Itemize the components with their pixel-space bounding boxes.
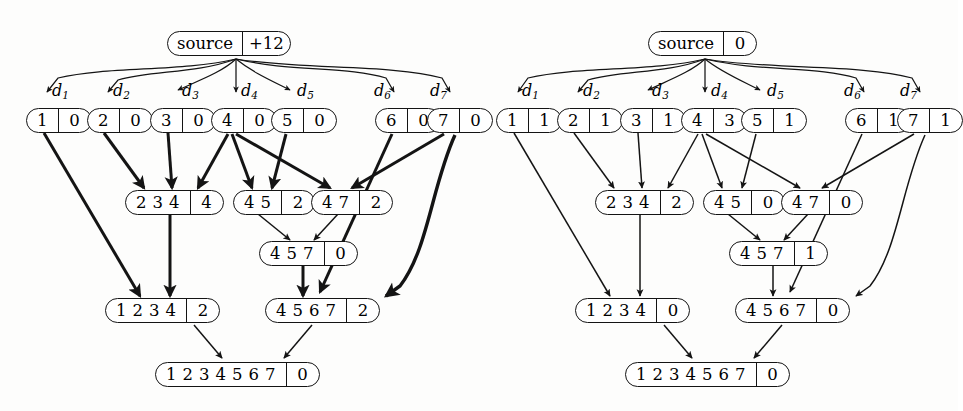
right-edge-label-d2: d2 [583,83,600,100]
right-node-1-counter: 1 [528,109,561,132]
left-node-1234[interactable]: 1 2 3 4 2 [105,298,220,323]
left-node-5-counter: 0 [303,109,336,132]
left-node-4[interactable]: 4 0 [211,108,277,133]
right-node-3-counter: 1 [652,109,685,132]
right-node-4[interactable]: 4 3 [681,108,747,133]
left-source-counter: +12 [242,32,290,55]
right-node-4567[interactable]: 4 5 6 7 0 [735,298,850,323]
left-node-47-cells: 4 7 [312,191,359,214]
left-node-234-cells: 2 3 4 [126,191,190,214]
left-node-result[interactable]: 1 2 3 4 5 6 7 0 [155,362,320,387]
left-source-node[interactable]: source +12 [167,31,291,56]
left-node-5-cells: 5 [272,109,303,132]
right-node-result[interactable]: 1 2 3 4 5 6 7 0 [625,362,790,387]
left-edge-label-d1: d1 [52,83,69,100]
left-node-4567-counter: 2 [346,299,379,322]
left-node-234-counter: 4 [190,191,223,214]
left-node-47-counter: 2 [359,191,392,214]
left-node-2-cells: 2 [88,109,119,132]
left-edge-label-d6: d6 [374,83,391,100]
left-node-6-cells: 6 [376,109,407,132]
right-node-7-counter: 1 [929,109,962,132]
left-node-7-cells: 7 [428,109,459,132]
right-edge-label-d1: d1 [522,83,539,100]
left-node-1234-cells: 1 2 3 4 [106,299,186,322]
right-edge-label-d5: d5 [767,83,784,100]
left-node-3[interactable]: 3 0 [150,108,216,133]
left-node-3-cells: 3 [151,109,182,132]
left-node-457-counter: 0 [324,242,357,265]
left-node-457-cells: 4 5 7 [260,242,324,265]
left-edge-label-d4: d4 [241,83,258,100]
right-node-4567-counter: 0 [816,299,849,322]
left-node-2-counter: 0 [119,109,152,132]
left-node-457[interactable]: 4 5 7 0 [259,241,358,266]
right-source-label-cells: source [649,32,723,55]
left-node-result-counter: 0 [286,363,319,386]
left-source-label-cells: source [168,32,242,55]
right-node-5-counter: 1 [773,109,806,132]
left-panel-merge-edges [194,214,338,358]
right-node-7-cells: 7 [898,109,929,132]
right-node-45-cells: 4 5 [704,191,751,214]
right-node-4-cells: 4 [682,109,713,132]
right-node-234-cells: 2 3 4 [596,191,660,214]
right-node-457-cells: 4 5 7 [730,242,794,265]
right-node-457[interactable]: 4 5 7 1 [729,241,828,266]
right-node-7[interactable]: 7 1 [897,108,963,133]
right-source-counter: 0 [723,32,756,55]
right-node-result-cells: 1 2 3 4 5 6 7 [626,363,756,386]
right-node-5-cells: 5 [742,109,773,132]
left-edge-label-d5: d5 [297,83,314,100]
left-node-45[interactable]: 4 5 2 [233,190,315,215]
left-node-5[interactable]: 5 0 [271,108,337,133]
left-node-1[interactable]: 1 0 [26,108,92,133]
right-node-2-cells: 2 [558,109,589,132]
right-node-457-counter: 1 [794,242,827,265]
left-node-4-cells: 4 [212,109,243,132]
right-node-result-counter: 0 [756,363,789,386]
left-node-3-counter: 0 [182,109,215,132]
right-node-1-cells: 1 [497,109,528,132]
left-node-234[interactable]: 2 3 4 4 [125,190,224,215]
right-node-47-counter: 0 [829,191,862,214]
right-node-47[interactable]: 4 7 0 [781,190,863,215]
right-node-1234-cells: 1 2 3 4 [576,299,656,322]
right-node-234[interactable]: 2 3 4 2 [595,190,694,215]
left-node-47[interactable]: 4 7 2 [311,190,393,215]
left-node-4567-cells: 4 5 6 7 [266,299,346,322]
right-panel-task-edges [514,133,925,358]
left-node-4567[interactable]: 4 5 6 7 2 [265,298,380,323]
right-node-5[interactable]: 5 1 [741,108,807,133]
left-node-7-counter: 0 [459,109,492,132]
right-node-3-cells: 3 [621,109,652,132]
right-source-label: source [656,32,716,55]
right-source-node[interactable]: source 0 [648,31,757,56]
left-source-label: source [175,32,235,55]
left-node-1234-counter: 2 [186,299,219,322]
right-edge-label-d4: d4 [711,83,728,100]
right-node-234-counter: 2 [660,191,693,214]
right-edge-label-d6: d6 [844,83,861,100]
left-node-2[interactable]: 2 0 [87,108,153,133]
right-node-1234[interactable]: 1 2 3 4 0 [575,298,690,323]
left-node-1-cells: 1 [27,109,58,132]
right-node-47-cells: 4 7 [782,191,829,214]
left-edge-label-d7: d7 [430,83,447,100]
right-node-1[interactable]: 1 1 [496,108,562,133]
left-edge-label-d2: d2 [113,83,130,100]
left-node-45-cells: 4 5 [234,191,281,214]
right-node-2-counter: 1 [589,109,622,132]
right-node-45-counter: 0 [751,191,784,214]
right-edge-label-d3: d3 [652,83,669,100]
left-node-45-counter: 2 [281,191,314,214]
left-node-result-cells: 1 2 3 4 5 6 7 [156,363,286,386]
right-node-45[interactable]: 4 5 0 [703,190,785,215]
right-node-4567-cells: 4 5 6 7 [736,299,816,322]
left-node-1-counter: 0 [58,109,91,132]
right-node-2[interactable]: 2 1 [557,108,623,133]
right-edge-label-d7: d7 [900,83,917,100]
left-node-7[interactable]: 7 0 [427,108,493,133]
right-node-3[interactable]: 3 1 [620,108,686,133]
